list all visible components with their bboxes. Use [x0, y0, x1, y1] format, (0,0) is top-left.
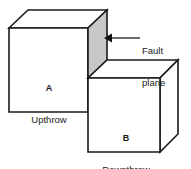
block-b-tag: B — [95, 133, 157, 143]
block-a-name: Upthrow — [18, 115, 80, 126]
figure-caption — [4, 160, 190, 169]
block-a-tag: A — [18, 83, 80, 93]
fault-plane-label-line2: plane — [142, 78, 190, 89]
fault-block-diagram: A Upthrow B Downthrow Fault plane — [0, 0, 191, 169]
fault-plane-label: Fault plane — [142, 25, 190, 110]
block-a-label: A Upthrow — [18, 62, 80, 146]
fault-plane-leader — [104, 34, 140, 43]
fault-plane-label-line1: Fault — [142, 46, 190, 57]
